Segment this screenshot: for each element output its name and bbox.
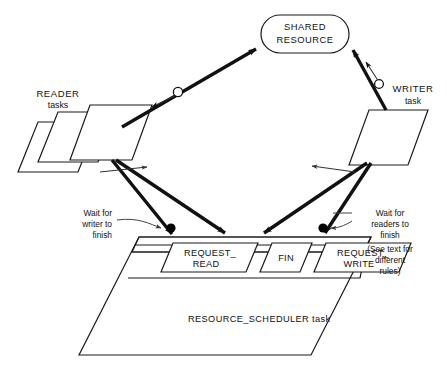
diagram-svg: SHARED RESOURCE READER tasks WRITER task <box>0 0 447 380</box>
entry-fin-label: FIN <box>278 253 294 263</box>
diagram-canvas: SHARED RESOURCE READER tasks WRITER task <box>0 0 447 380</box>
note-left-line2: writer to <box>81 219 112 229</box>
note-left-line3: finish <box>92 230 112 240</box>
entry-request-read-label-line1: REQUEST_ <box>184 248 237 258</box>
entry-request-read-label-line2: READ <box>193 259 220 269</box>
note-right-line6: rules) <box>380 266 401 276</box>
guard-dot-request-read <box>166 223 175 232</box>
reader-label-line1: READER <box>36 88 79 99</box>
note-right-line5: different <box>375 255 406 265</box>
shared-resource-label-line1: SHARED <box>284 21 326 32</box>
note-right-line1: Wait for <box>376 208 405 218</box>
note-wait-for-writer: Wait for writer to finish <box>81 208 161 240</box>
reader-access-ring-icon <box>173 87 182 96</box>
note-right-line3: finish <box>380 230 400 240</box>
writer-access-ring-icon <box>375 80 384 89</box>
writer-task-node[interactable] <box>349 110 428 165</box>
guard-dot-request-write <box>318 223 327 232</box>
reader-label-line2: tasks <box>48 100 69 110</box>
writer-task-caption: WRITER task <box>392 83 433 106</box>
shared-resource-node[interactable]: SHARED RESOURCE <box>261 15 349 53</box>
writer-call-direction-arrow <box>312 166 355 172</box>
reader-fin-call-line <box>116 160 225 233</box>
reader-request-read-call-line <box>112 160 172 234</box>
reader-call-direction-arrow <box>100 167 147 172</box>
writer-task-shape <box>349 110 428 165</box>
writer-request-write-call-line <box>325 163 371 233</box>
note-right-line4: (See text for <box>367 244 413 254</box>
entry-request-read[interactable]: REQUEST_ READ <box>161 243 258 272</box>
reader-to-resource-link <box>122 49 256 127</box>
writer-label-line1: WRITER <box>392 83 433 94</box>
note-right-line2: readers to <box>371 219 409 229</box>
reader-to-scheduler-links <box>100 160 225 234</box>
writer-to-resource-link <box>353 50 386 110</box>
writer-label-line2: task <box>405 96 422 106</box>
resource-scheduler-label: RESOURCE_SCHEDULER task <box>188 314 330 324</box>
reader-tasks-caption: READER tasks <box>36 88 79 110</box>
entry-request-write-label-line2: WRITE <box>343 259 374 269</box>
reader-resource-access-line <box>122 49 256 127</box>
note-left-leader-line <box>117 219 161 228</box>
writer-to-scheduler-links <box>264 163 371 233</box>
reader-access-direction-arrow <box>152 96 174 107</box>
reader-task-stack[interactable] <box>18 105 152 172</box>
shared-resource-label-line2: RESOURCE <box>276 34 333 45</box>
note-left-line1: Wait for <box>83 208 112 218</box>
writer-fin-call-line <box>264 163 367 233</box>
